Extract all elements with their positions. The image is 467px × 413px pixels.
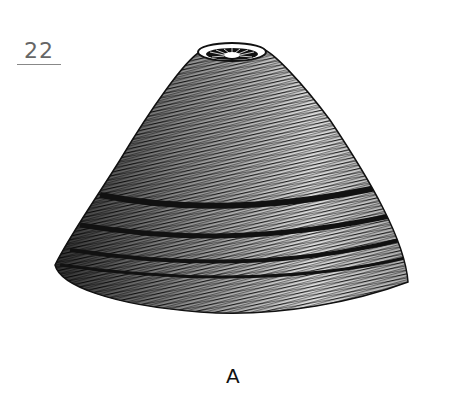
cone-body [40, 40, 430, 330]
calyx-opening [198, 43, 266, 61]
panel-label: A [226, 364, 240, 388]
conical-specimen-illustration [0, 0, 467, 413]
